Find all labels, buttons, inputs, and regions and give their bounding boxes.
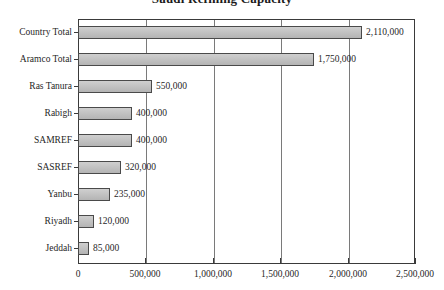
x-axis-tick bbox=[213, 258, 214, 264]
bar-value-label: 1,750,000 bbox=[318, 52, 356, 67]
category-label: Jeddah bbox=[0, 235, 72, 262]
category-label: SAMREF bbox=[0, 127, 72, 154]
x-axis-tick bbox=[280, 258, 281, 264]
bar-row: Country Total2,110,000 bbox=[0, 19, 444, 46]
category-label: Rabigh bbox=[0, 100, 72, 127]
bar-row: SAMREF400,000 bbox=[0, 127, 444, 154]
bar bbox=[78, 53, 314, 66]
bar-row: Jeddah85,000 bbox=[0, 235, 444, 262]
x-axis-tick bbox=[78, 258, 79, 264]
bar bbox=[78, 26, 362, 39]
bar bbox=[78, 161, 121, 174]
x-axis-tick-label: 1,000,000 bbox=[194, 267, 232, 281]
bar-value-label: 235,000 bbox=[114, 187, 145, 202]
bar bbox=[78, 80, 152, 93]
chart-title: Saudi Refining Capacity bbox=[0, 0, 444, 7]
bar-row: Aramco Total1,750,000 bbox=[0, 46, 444, 73]
x-axis-tick-label: 0 bbox=[76, 267, 81, 281]
bar-row: Ras Tanura550,000 bbox=[0, 73, 444, 100]
x-axis-tick bbox=[145, 258, 146, 264]
bar-value-label: 2,110,000 bbox=[366, 25, 404, 40]
x-axis-tick bbox=[415, 258, 416, 264]
x-axis-tick-label: 1,500,000 bbox=[261, 267, 299, 281]
category-label: Country Total bbox=[0, 19, 72, 46]
x-axis-tick-label: 2,000,000 bbox=[329, 267, 367, 281]
chart-container: Saudi Refining Capacity Country Total2,1… bbox=[0, 0, 444, 290]
bar-rows: Country Total2,110,000Aramco Total1,750,… bbox=[0, 19, 444, 264]
bar-row: Yanbu235,000 bbox=[0, 181, 444, 208]
x-axis-line bbox=[78, 263, 416, 264]
x-axis-tick-label: 500,000 bbox=[130, 267, 161, 281]
category-label: Yanbu bbox=[0, 181, 72, 208]
bar bbox=[78, 107, 132, 120]
x-axis-tick bbox=[348, 258, 349, 264]
category-label: Ras Tanura bbox=[0, 73, 72, 100]
bar-value-label: 550,000 bbox=[156, 79, 187, 94]
category-label: SASREF bbox=[0, 154, 72, 181]
bar-value-label: 85,000 bbox=[93, 241, 119, 256]
bar-row: SASREF320,000 bbox=[0, 154, 444, 181]
bar-row: Riyadh120,000 bbox=[0, 208, 444, 235]
bar bbox=[78, 215, 94, 228]
bar-value-label: 320,000 bbox=[125, 160, 156, 175]
bar-row: Rabigh400,000 bbox=[0, 100, 444, 127]
bar-value-label: 120,000 bbox=[98, 214, 129, 229]
category-label: Riyadh bbox=[0, 208, 72, 235]
x-axis-tick-label: 2,500,000 bbox=[396, 267, 434, 281]
bar bbox=[78, 134, 132, 147]
bar-value-label: 400,000 bbox=[136, 133, 167, 148]
bar-value-label: 400,000 bbox=[136, 106, 167, 121]
bar bbox=[78, 188, 110, 201]
category-label: Aramco Total bbox=[0, 46, 72, 73]
bar bbox=[78, 242, 89, 255]
